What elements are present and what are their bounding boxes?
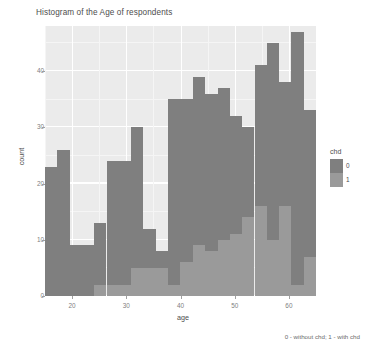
histogram-bar (168, 26, 180, 296)
histogram-bar (107, 26, 119, 296)
histogram-bar (94, 26, 106, 296)
bar-segment-chd-1 (267, 240, 279, 296)
x-axis-tick-mark (126, 296, 127, 299)
bar-segment-chd-1 (143, 268, 155, 296)
bar-segment-chd-1 (180, 262, 192, 296)
histogram-bar (304, 26, 316, 296)
x-axis-tick-mark (289, 296, 290, 299)
bar-segment-chd-1 (304, 257, 316, 296)
histogram-bar (180, 26, 192, 296)
legend-item-1[interactable]: 1 (330, 173, 364, 187)
x-axis-tick-label: 30 (116, 302, 136, 309)
bar-segment-chd-0 (107, 161, 119, 285)
bar-segment-chd-0 (180, 99, 192, 262)
bar-segment-chd-1 (279, 206, 291, 296)
legend: chd 01 (330, 148, 364, 187)
bar-segment-chd-1 (205, 251, 217, 296)
bar-segment-chd-0 (94, 223, 106, 285)
x-axis-tick-label: 40 (171, 302, 191, 309)
bar-segment-chd-0 (131, 127, 143, 268)
y-axis-label: count (17, 127, 26, 187)
legend-swatch-icon (330, 173, 343, 187)
x-axis-label: age (0, 313, 366, 322)
bar-segment-chd-0 (291, 32, 303, 285)
x-axis-tick-mark (181, 296, 182, 299)
histogram-bar (143, 26, 155, 296)
bar-segment-chd-0 (255, 65, 267, 206)
x-axis-tick-label: 20 (62, 302, 82, 309)
bar-segment-chd-0 (70, 245, 82, 296)
bar-segment-chd-0 (230, 116, 242, 234)
histogram-bar (242, 26, 254, 296)
bar-segment-chd-1 (230, 234, 242, 296)
bar-segment-chd-1 (193, 245, 205, 296)
x-axis-tick-mark (72, 296, 73, 299)
bar-segment-chd-0 (82, 245, 94, 296)
histogram-bar (205, 26, 217, 296)
histogram-bar (255, 26, 267, 296)
x-axis-tick-label: 50 (225, 302, 245, 309)
bar-segment-chd-1 (291, 285, 303, 296)
plot-panel (45, 26, 316, 296)
legend-item-label: 0 (346, 162, 350, 170)
bar-segment-chd-0 (57, 150, 69, 296)
y-axis-tick-mark (42, 184, 45, 185)
bar-segment-chd-1 (255, 206, 267, 296)
bar-segment-chd-0 (304, 110, 316, 256)
bar-segment-chd-0 (45, 167, 57, 296)
bar-segment-chd-1 (242, 217, 254, 296)
y-axis-tick-mark (42, 127, 45, 128)
legend-title: chd (330, 148, 364, 156)
y-axis-tick-mark (42, 71, 45, 72)
histogram-bar (267, 26, 279, 296)
histogram-chart: Histogram of the Age of respondents 0102… (0, 0, 366, 350)
chart-caption: 0 - without chd; 1 - with chd (285, 333, 360, 340)
chart-title: Histogram of the Age of respondents (36, 8, 172, 17)
bar-segment-chd-0 (279, 82, 291, 206)
bar-segment-chd-1 (218, 240, 230, 296)
bar-segment-chd-0 (242, 127, 254, 217)
histogram-bar (230, 26, 242, 296)
histogram-bar (193, 26, 205, 296)
bar-segment-chd-1 (168, 285, 180, 296)
bar-segment-chd-0 (193, 77, 205, 246)
histogram-bar (291, 26, 303, 296)
bar-segment-chd-0 (205, 94, 217, 252)
bar-segment-chd-1 (119, 285, 131, 296)
bar-segment-chd-0 (218, 88, 230, 240)
legend-item-label: 1 (346, 176, 350, 184)
legend-item-0[interactable]: 0 (330, 159, 364, 173)
histogram-bar (279, 26, 291, 296)
legend-items: 01 (330, 159, 364, 187)
y-axis-tick-mark (42, 296, 45, 297)
y-axis-tick-mark (42, 240, 45, 241)
x-axis-tick-label: 60 (279, 302, 299, 309)
bar-segment-chd-0 (143, 229, 155, 268)
histogram-bar (218, 26, 230, 296)
histogram-bar (131, 26, 143, 296)
bar-segment-chd-1 (94, 285, 106, 296)
histogram-bar (156, 26, 168, 296)
legend-swatch-icon (330, 159, 343, 173)
histogram-bar (82, 26, 94, 296)
histogram-bar (45, 26, 57, 296)
histogram-bar (70, 26, 82, 296)
bar-segment-chd-1 (131, 268, 143, 296)
bar-segment-chd-0 (156, 251, 168, 268)
bar-segment-chd-1 (107, 285, 119, 296)
bar-segment-chd-1 (156, 268, 168, 296)
histogram-bar (57, 26, 69, 296)
x-axis-tick-mark (235, 296, 236, 299)
bar-segment-chd-0 (119, 161, 131, 285)
bar-segment-chd-0 (168, 99, 180, 285)
bar-segment-chd-0 (267, 43, 279, 240)
histogram-bar (119, 26, 131, 296)
